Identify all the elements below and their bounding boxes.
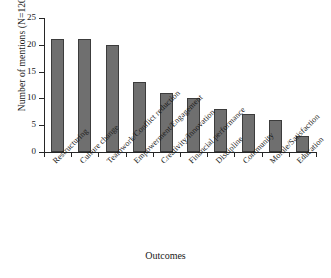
x-tick (316, 152, 317, 157)
x-axis-title: Outcomes (0, 250, 331, 261)
y-tick: 25 (39, 18, 44, 19)
y-tick: 20 (39, 45, 44, 46)
y-tick: 5 (39, 125, 44, 126)
y-tick-label: 15 (27, 66, 36, 77)
x-tick (71, 152, 72, 157)
y-tick-label: 0 (32, 146, 37, 157)
x-tick (180, 152, 181, 157)
x-tick (234, 152, 235, 157)
y-tick: 10 (39, 98, 44, 99)
x-tick (207, 152, 208, 157)
y-tick: 15 (39, 72, 44, 73)
y-tick-label: 20 (27, 39, 36, 50)
x-tick (153, 152, 154, 157)
x-tick (98, 152, 99, 157)
y-tick-label: 25 (27, 12, 36, 23)
y-tick-label: 5 (32, 119, 37, 130)
x-tick (44, 152, 45, 157)
bar-chart: Number of mentions (N=120) 0510152025 Re… (0, 0, 331, 278)
x-tick (126, 152, 127, 157)
y-axis-line (44, 18, 45, 152)
bar (51, 39, 64, 152)
x-tick (289, 152, 290, 157)
x-tick (262, 152, 263, 157)
y-axis-title: Number of mentions (N=120) (17, 0, 27, 123)
y-tick-label: 10 (27, 92, 36, 103)
